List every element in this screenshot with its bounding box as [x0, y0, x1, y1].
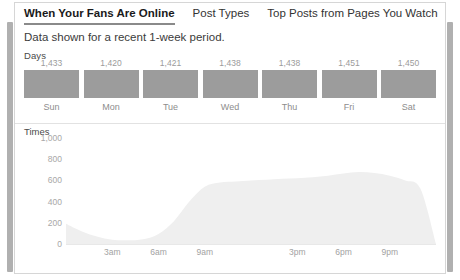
day-bar-value: 1,450: [398, 58, 419, 68]
times-y-tick-label: 400: [48, 197, 62, 206]
times-area-svg: [66, 138, 436, 244]
day-bar-label: Wed: [221, 102, 239, 113]
day-bar-value: 1,451: [338, 58, 359, 68]
tab-post-types[interactable]: Post Types: [193, 6, 250, 25]
tab-label: Post Types: [193, 7, 250, 19]
times-x-tick-label: 9pm: [381, 247, 398, 257]
day-bar-value: 1,420: [100, 58, 121, 68]
day-bar-rect: [322, 70, 377, 98]
times-area-path: [66, 172, 436, 244]
tab-when-your-fans-are-online[interactable]: When Your Fans Are Online: [24, 6, 175, 25]
tab-label: Top Posts from Pages You Watch: [267, 7, 437, 19]
times-chart-section: Times 1,0008006004002000 3am6am9am3pm6pm…: [15, 124, 445, 273]
day-bar-column[interactable]: 1,451Fri: [322, 58, 377, 123]
days-chart-section: Days 1,433Sun1,420Mon1,421Tue1,438Wed1,4…: [15, 49, 445, 124]
times-y-axis: 1,0008006004002000: [24, 138, 64, 244]
day-bar-value: 1,438: [219, 58, 240, 68]
scrollbar-left[interactable]: [7, 22, 13, 272]
day-bar-value: 1,421: [160, 58, 181, 68]
day-bar-rect: [143, 70, 198, 98]
times-y-tick-label: 200: [48, 218, 62, 227]
times-x-tick-label: 3am: [104, 247, 121, 257]
times-x-tick-label: 6pm: [335, 247, 352, 257]
day-bar-column[interactable]: 1,438Thu: [262, 58, 317, 123]
day-bar-column[interactable]: 1,421Tue: [143, 58, 198, 123]
times-x-tick-label: 3pm: [289, 247, 306, 257]
day-bar-rect: [381, 70, 436, 98]
times-plot-wrapper: 1,0008006004002000 3am6am9am3pm6pm9pm: [24, 138, 436, 269]
day-bar-column[interactable]: 1,450Sat: [381, 58, 436, 123]
period-subtitle: Data shown for a recent 1-week period.: [24, 31, 225, 43]
day-bar-column[interactable]: 1,438Wed: [203, 58, 258, 123]
day-bar-value: 1,438: [279, 58, 300, 68]
times-y-tick-label: 0: [57, 240, 62, 249]
times-x-axis: 3am6am9am3pm6pm9pm: [66, 244, 436, 261]
scrollbar-right[interactable]: [447, 22, 453, 272]
insights-card: When Your Fans Are Online Post Types Top…: [14, 2, 446, 274]
times-y-tick-label: 1,000: [41, 134, 62, 143]
day-bar-label: Mon: [102, 102, 120, 113]
day-bar-rect: [262, 70, 317, 98]
times-x-tick-label: 6am: [150, 247, 167, 257]
tab-top-posts-from-pages-you-watch[interactable]: Top Posts from Pages You Watch: [267, 6, 437, 25]
day-bar-column[interactable]: 1,420Mon: [84, 58, 139, 123]
days-bar-chart: 1,433Sun1,420Mon1,421Tue1,438Wed1,438Thu…: [24, 58, 436, 123]
day-bar-value: 1,433: [41, 58, 62, 68]
day-bar-label: Sun: [43, 102, 59, 113]
times-y-tick-label: 800: [48, 155, 62, 164]
day-bar-label: Tue: [163, 102, 178, 113]
day-bar-label: Thu: [282, 102, 298, 113]
day-bar-rect: [84, 70, 139, 98]
day-bar-column[interactable]: 1,433Sun: [24, 58, 79, 123]
tab-label: When Your Fans Are Online: [24, 7, 175, 19]
tab-bar: When Your Fans Are Online Post Types Top…: [15, 3, 445, 28]
screenshot-root: When Your Fans Are Online Post Types Top…: [0, 0, 460, 280]
times-area-chart: [66, 138, 436, 244]
day-bar-rect: [203, 70, 258, 98]
day-bar-label: Fri: [344, 102, 355, 113]
day-bar-rect: [24, 70, 79, 98]
day-bar-label: Sat: [402, 102, 416, 113]
times-y-tick-label: 600: [48, 176, 62, 185]
times-x-tick-label: 9am: [196, 247, 213, 257]
